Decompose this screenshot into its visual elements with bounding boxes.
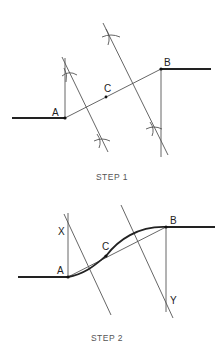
- label-b: B: [164, 57, 171, 68]
- point-c: [104, 254, 107, 257]
- label-a: A: [57, 265, 64, 276]
- step-1-figure: A C B STEP 1: [12, 23, 211, 182]
- bisector-cb: [103, 23, 168, 155]
- point-a: [63, 116, 66, 119]
- arc-mark-icon: [102, 29, 120, 45]
- bisector-cb: [121, 205, 173, 318]
- bisector-ac: [62, 57, 108, 152]
- arc-mark-icon: [94, 134, 110, 148]
- point-b: [159, 67, 162, 70]
- label-a: A: [52, 107, 59, 118]
- bisector-ac: [64, 214, 111, 315]
- step-2-caption: STEP 2: [91, 333, 123, 343]
- chord-ab: [68, 227, 166, 277]
- label-b: B: [170, 215, 177, 226]
- reverse-curve-construction-diagram: A C B STEP 1 A C B X Y STEP 2: [0, 0, 223, 353]
- label-c: C: [102, 241, 109, 252]
- point-b: [164, 225, 167, 228]
- arc-mark-icon: [146, 122, 162, 136]
- point-a: [66, 275, 69, 278]
- arc-mark-icon: [62, 68, 77, 82]
- point-c: [105, 96, 108, 99]
- step-1-caption: STEP 1: [96, 172, 128, 182]
- label-y: Y: [170, 295, 177, 306]
- label-c: C: [104, 83, 111, 94]
- step-2-figure: A C B X Y STEP 2: [18, 205, 215, 343]
- label-x: X: [58, 226, 65, 237]
